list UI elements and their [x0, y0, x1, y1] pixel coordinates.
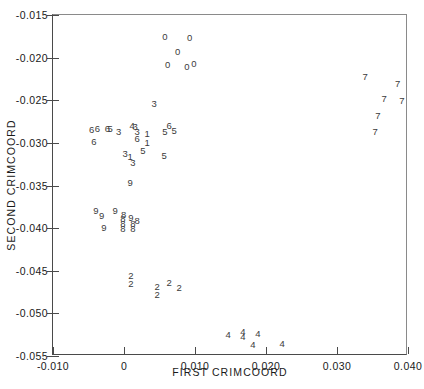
data-point-9: 9: [93, 207, 98, 217]
data-point-7: 7: [375, 111, 380, 121]
data-point-5: 5: [162, 151, 167, 161]
data-point-5: 5: [171, 126, 176, 136]
y-tick-label: -0.040: [16, 222, 48, 234]
data-point-6: 6: [89, 126, 94, 136]
data-point-3: 3: [130, 158, 135, 168]
scatter-plot: -0.015-0.020-0.025-0.030-0.035-0.040-0.0…: [0, 0, 424, 389]
data-point-3: 3: [152, 99, 157, 109]
data-point-0: 0: [187, 33, 192, 43]
data-point-6: 6: [95, 124, 100, 134]
data-point-7: 7: [382, 94, 387, 104]
data-point-9: 9: [127, 178, 132, 188]
data-point-2: 2: [176, 284, 181, 294]
data-point-4: 4: [225, 331, 230, 341]
x-tick-label: 0: [121, 360, 127, 372]
data-point-7: 7: [362, 72, 367, 82]
x-tick-label: -0.010: [37, 360, 69, 372]
data-point-5: 5: [108, 124, 113, 134]
y-tick-label: -0.015: [16, 9, 48, 21]
data-point-2: 2: [128, 280, 133, 290]
data-point-4: 4: [279, 340, 284, 350]
data-point-9: 9: [113, 207, 118, 217]
y-tick-mark-inner: [53, 356, 59, 357]
data-point-6: 6: [135, 134, 140, 144]
data-point-6: 6: [91, 137, 96, 147]
x-tick-label: 0.040: [394, 360, 422, 372]
x-axis-title: FIRST CRIMCOORD: [172, 366, 287, 378]
data-point-7: 7: [399, 96, 404, 106]
data-point-2: 2: [166, 279, 171, 289]
data-point-4: 4: [255, 329, 260, 339]
data-point-0: 0: [165, 60, 170, 70]
data-point-7: 7: [395, 79, 400, 89]
y-tick-label: -0.035: [16, 180, 48, 192]
x-tick-label: 0.030: [323, 360, 351, 372]
data-point-9: 9: [99, 212, 104, 222]
data-point-0: 0: [191, 59, 196, 69]
y-tick-label: -0.045: [16, 265, 48, 277]
data-point-0: 0: [184, 62, 189, 72]
data-point-4: 4: [240, 333, 245, 343]
data-point-0: 0: [175, 47, 180, 57]
x-tick-mark: [408, 347, 409, 354]
data-points-layer: 0000003666534331565661531539998989888988…: [52, 14, 407, 355]
y-tick-label: -0.050: [16, 307, 48, 319]
data-point-0: 0: [162, 32, 167, 42]
data-point-5: 5: [140, 146, 145, 156]
y-tick-label: -0.025: [16, 94, 48, 106]
data-point-3: 3: [116, 127, 121, 137]
y-axis-title: SECOND CRIMCOORD: [5, 119, 17, 250]
data-point-2: 2: [154, 291, 159, 301]
y-tick-label: -0.020: [16, 52, 48, 64]
data-point-7: 7: [372, 127, 377, 137]
data-point-9: 9: [101, 224, 106, 234]
data-point-8: 8: [130, 225, 135, 235]
data-point-8: 8: [120, 225, 125, 235]
data-point-4: 4: [250, 341, 255, 351]
y-tick-label: -0.030: [16, 137, 48, 149]
